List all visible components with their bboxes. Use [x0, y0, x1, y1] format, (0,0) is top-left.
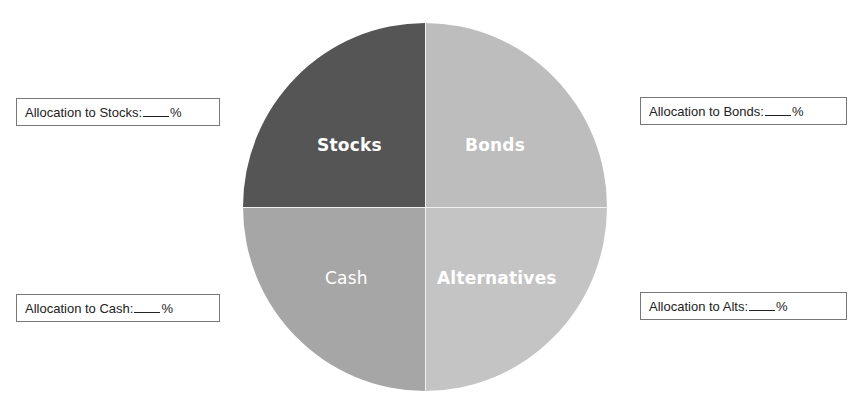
- allocation-stocks-percent: %: [170, 105, 182, 120]
- slice-label-stocks: Stocks: [317, 135, 382, 155]
- allocation-alts-label: Allocation to Alts:: [649, 299, 748, 314]
- allocation-cash-blank[interactable]: [134, 300, 160, 313]
- pie-slice-cash: Cash: [243, 207, 425, 391]
- allocation-alts-percent: %: [776, 299, 788, 314]
- allocation-pie-chart: Stocks Bonds Cash Alternatives: [243, 23, 607, 391]
- allocation-alts-box: Allocation to Alts:%: [640, 292, 847, 320]
- allocation-cash-percent: %: [161, 301, 173, 316]
- slice-label-cash: Cash: [325, 268, 368, 288]
- allocation-stocks-label: Allocation to Stocks:: [25, 105, 142, 120]
- allocation-cash-box: Allocation to Cash:%: [16, 294, 220, 322]
- allocation-bonds-percent: %: [792, 104, 804, 119]
- pie-slice-bonds: Bonds: [425, 23, 607, 207]
- pie-slice-alternatives: Alternatives: [425, 207, 607, 391]
- allocation-stocks-blank[interactable]: [143, 104, 169, 117]
- allocation-bonds-blank[interactable]: [765, 103, 791, 116]
- allocation-stocks-box: Allocation to Stocks:%: [16, 98, 220, 126]
- allocation-bonds-box: Allocation to Bonds:%: [640, 97, 847, 125]
- allocation-cash-label: Allocation to Cash:: [25, 301, 133, 316]
- allocation-bonds-label: Allocation to Bonds:: [649, 104, 764, 119]
- allocation-alts-blank[interactable]: [749, 298, 775, 311]
- slice-label-bonds: Bonds: [465, 135, 525, 155]
- slice-label-alternatives: Alternatives: [437, 268, 557, 288]
- pie-slice-stocks: Stocks: [243, 23, 425, 207]
